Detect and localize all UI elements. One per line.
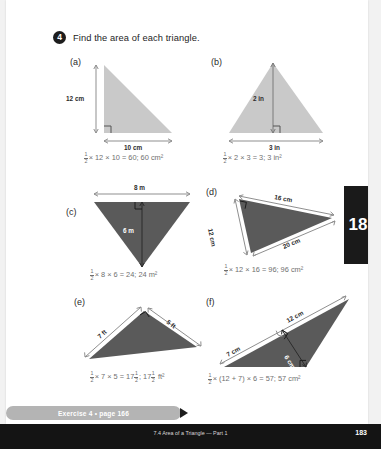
exercise-banner-label: Exercise 4 • page 166 [58, 410, 129, 417]
problem-c-base-label: 8 m [134, 184, 145, 191]
problem-c: (c) 8 m 6 m 12× 8 × 6 = 24; 24 m² [66, 185, 206, 267]
exercise-banner-pill[interactable]: Exercise 4 • page 166 [6, 406, 181, 420]
question-number-badge: 4 [53, 31, 66, 44]
worksheet-page: 4 Find the area of each triangle. (a) 12… [6, 0, 368, 424]
fraction-denominator: 2 [90, 276, 94, 282]
problem-b-label: (b) [211, 57, 222, 67]
triangle-a-shape [104, 65, 172, 133]
one-half-fraction-d: 12 [224, 264, 228, 276]
problem-a: (a) 12 cm 10 cm 12× 12 × 10 = 60; 60 cm² [66, 55, 196, 150]
problem-c-answer-expression: × 8 × 6 = 24; 24 m² [95, 270, 158, 279]
problem-b-base-label: 3 in [269, 144, 280, 151]
problem-d: (d) 16 cm 12 cm 20 cm 12× 12 × 16 = 96; … [206, 185, 356, 263]
problem-f: (f) 12 cm 7 cm 6 cm 12× (12 + 7) × 6 = 5… [206, 297, 356, 375]
one-half-fraction-b: 12 [223, 152, 227, 164]
fraction-denominator: 2 [90, 378, 94, 384]
problem-e-answer-middle: ; 17 [139, 372, 151, 381]
triangle-b-shape [229, 63, 323, 133]
question-prompt: Find the area of each triangle. [73, 33, 200, 43]
problem-b-height-label: 2 in [253, 95, 264, 102]
one-half-fraction-e: 12 [90, 371, 94, 383]
problem-f-side-left-label: 7 cm [225, 345, 241, 358]
problem-d-answer: 12× 12 × 16 = 96; 96 cm² [224, 264, 303, 276]
problem-b: (b) 2 in 3 in 12× 2 × 3 = 3; 3 in² [211, 55, 351, 150]
footer-page-number: 183 [355, 429, 367, 436]
problem-d-label: (d) [206, 187, 217, 197]
problem-c-height-label: 6 m [123, 227, 134, 234]
problem-a-figure: 12 cm 10 cm [66, 55, 196, 150]
fraction-denominator: 2 [223, 159, 227, 165]
one-half-fraction-a: 12 [84, 152, 88, 164]
problem-e-answer-suffix: ft² [156, 372, 165, 381]
fraction-denominator: 2 [224, 271, 228, 277]
problem-e-figure: 7 ft 5 ft [66, 297, 211, 367]
problem-e-answer: 12× 7 × 5 = 1712; 1712 ft² [90, 371, 165, 383]
problem-b-figure: 2 in 3 in [211, 55, 351, 150]
fraction-denominator: 2 [84, 159, 88, 165]
problem-e-label: (e) [74, 297, 85, 307]
problem-f-answer: 12× (12 + 7) × 6 = 57; 57 cm² [208, 373, 301, 385]
one-half-fraction-c: 12 [90, 269, 94, 281]
fraction-denominator: 2 [134, 378, 138, 384]
exercise-banner[interactable]: Exercise 4 • page 166 [6, 406, 188, 420]
question-header: 4 Find the area of each triangle. [53, 31, 200, 44]
problem-c-figure: 8 m 6 m [66, 185, 206, 267]
problem-f-side-top-label: 12 cm [285, 309, 305, 324]
fraction-denominator: 2 [151, 378, 155, 384]
problem-a-base-label: 10 cm [124, 144, 142, 151]
problem-f-figure: 12 cm 7 cm 6 cm [206, 297, 356, 375]
problem-e: (e) 7 ft 5 ft 12× 7 × 5 = 1712; 1712 ft² [66, 297, 211, 367]
problem-a-answer-expression: × 12 × 10 = 60; 60 cm² [89, 153, 164, 162]
problem-a-answer: 12× 12 × 10 = 60; 60 cm² [84, 152, 163, 164]
problem-a-label: (a) [70, 57, 81, 67]
problem-b-answer-expression: × 2 × 3 = 3; 3 in² [228, 153, 282, 162]
page-footer: 7.4 Area of a Triangle — Part 1 183 [0, 424, 381, 449]
one-half-fraction-f: 12 [208, 373, 212, 385]
banner-arrow-icon [180, 408, 188, 418]
chapter-tab-number: 18 [349, 215, 368, 235]
problem-d-figure: 16 cm 12 cm 20 cm [206, 185, 356, 263]
problem-c-label: (c) [66, 207, 77, 217]
problem-a-height-label: 12 cm [66, 95, 84, 102]
problem-d-answer-expression: × 12 × 16 = 96; 96 cm² [229, 265, 304, 274]
problem-b-answer: 12× 2 × 3 = 3; 3 in² [223, 152, 282, 164]
problem-c-answer: 12× 8 × 6 = 24; 24 m² [90, 269, 157, 281]
problem-d-side-left-label: 12 cm [207, 228, 218, 247]
fraction-denominator: 2 [208, 380, 212, 386]
footer-lesson-title: 7.4 Area of a Triangle — Part 1 [0, 430, 381, 436]
problem-d-side-top-label: 16 cm [274, 193, 293, 203]
mixed-fraction-first-e: 12 [134, 371, 138, 383]
problem-f-answer-expression: × (12 + 7) × 6 = 57; 57 cm² [213, 374, 301, 383]
mixed-fraction-second-e: 12 [151, 371, 155, 383]
problem-e-answer-prefix: × 7 × 5 = 17 [95, 372, 135, 381]
chapter-tab: 18 [344, 186, 368, 264]
problem-f-label: (f) [206, 297, 215, 307]
